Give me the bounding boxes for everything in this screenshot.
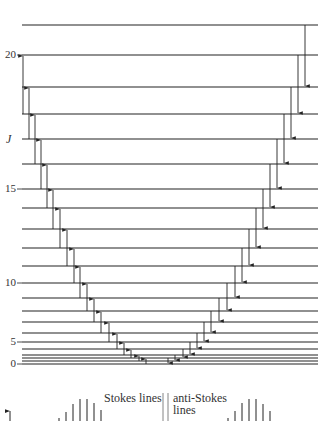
anti-stokes-transitions bbox=[168, 25, 305, 363]
y-axis-label: J bbox=[6, 133, 11, 145]
tick-label: 10 bbox=[5, 277, 16, 288]
tick-label: 5 bbox=[11, 336, 17, 347]
axis-ticks bbox=[17, 55, 22, 364]
tick-label: 15 bbox=[5, 183, 16, 194]
tick-label: 0 bbox=[11, 358, 17, 369]
tick-label: 20 bbox=[5, 49, 16, 60]
anti-stokes-lines-label-2: lines bbox=[173, 404, 196, 417]
stokes-lines-label: Stokes lines bbox=[104, 392, 162, 405]
raman-energy-level-diagram bbox=[0, 0, 318, 421]
stokes-transitions bbox=[23, 56, 146, 364]
energy-levels bbox=[22, 25, 318, 364]
